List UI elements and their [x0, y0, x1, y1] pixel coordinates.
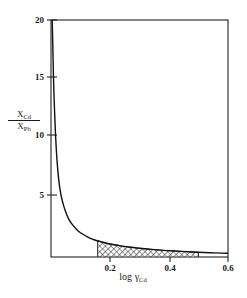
x-axis-label-prefix: log — [119, 271, 134, 282]
x-axis-label-subscript: Cd — [139, 276, 147, 283]
y-axis-label-numerator-sub: Cd — [23, 113, 31, 120]
y-axis-label: XCd XPb — [6, 110, 42, 132]
chart-figure: 20 15 10 5 0.2 0.4 0.6 XCd XPb log γCd — [0, 0, 247, 298]
y-tick-label-5: 5 — [26, 191, 44, 200]
y-axis-tick-stubs — [47, 20, 51, 195]
fraction-bar — [8, 120, 40, 121]
x-axis-ticks — [110, 257, 228, 262]
plot-frame — [51, 20, 228, 257]
y-axis-label-denominator-sub: Pb — [24, 125, 31, 132]
y-axis-label-denominator-base: X — [17, 121, 24, 131]
y-axis-label-denominator: XPb — [6, 122, 42, 131]
x-tick-label-06: 0.6 — [214, 264, 242, 273]
plot-area — [0, 0, 247, 298]
y-axis-label-numerator: XCd — [6, 110, 42, 119]
x-axis-label: log γCd — [78, 271, 188, 282]
y-tick-label-20: 20 — [26, 16, 44, 25]
y-tick-label-10: 10 — [26, 131, 44, 140]
y-tick-label-15: 15 — [26, 73, 44, 82]
